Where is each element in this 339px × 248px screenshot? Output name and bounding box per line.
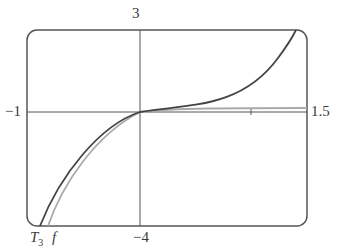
y-min-label: −4 <box>133 230 149 245</box>
y-max-label: 3 <box>132 6 140 21</box>
legend-f: f <box>52 230 56 245</box>
x-min-label: −1 <box>5 104 21 119</box>
x-max-label: 1.5 <box>311 104 330 119</box>
plot-frame <box>27 30 307 226</box>
legend-t3: T3 <box>30 230 43 248</box>
chart-canvas <box>0 0 339 248</box>
curve-f <box>48 108 307 226</box>
curve-t3 <box>40 30 296 226</box>
legend-t3-subscript: 3 <box>38 237 43 248</box>
